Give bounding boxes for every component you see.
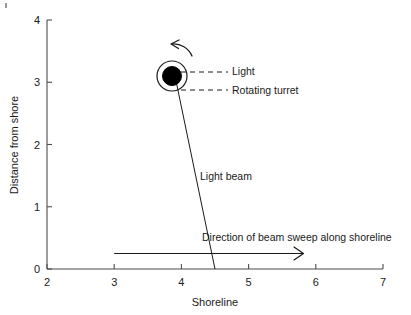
lighthouse-beam-diagram: 2 3 4 5 6 7 0 1 2 3 4 Shoreline Distance… [0, 0, 411, 315]
annotation-rotating-turret: Rotating turret [232, 84, 299, 96]
annotation-sweep-direction: Direction of beam sweep along shoreline [202, 231, 392, 243]
annotation-light: Light [232, 65, 255, 77]
y-tick-label-0: 0 [28, 263, 40, 275]
x-tick-label-2: 2 [44, 276, 50, 288]
x-tick-label-4: 4 [178, 276, 184, 288]
light-dot [163, 67, 182, 86]
y-axis-title: Distance from shore [8, 96, 20, 194]
y-tick-label-3: 3 [28, 76, 40, 88]
y-tick-label-1: 1 [28, 201, 40, 213]
x-tick-label-7: 7 [380, 276, 386, 288]
diagram-canvas [0, 0, 411, 315]
x-axis-title: Shoreline [192, 296, 238, 308]
x-tick-label-3: 3 [111, 276, 117, 288]
x-tick-label-5: 5 [246, 276, 252, 288]
x-tick-label-6: 6 [313, 276, 319, 288]
annotation-light-beam: Light beam [200, 170, 252, 182]
y-tick-label-4: 4 [28, 14, 40, 26]
y-tick-label-2: 2 [28, 139, 40, 151]
